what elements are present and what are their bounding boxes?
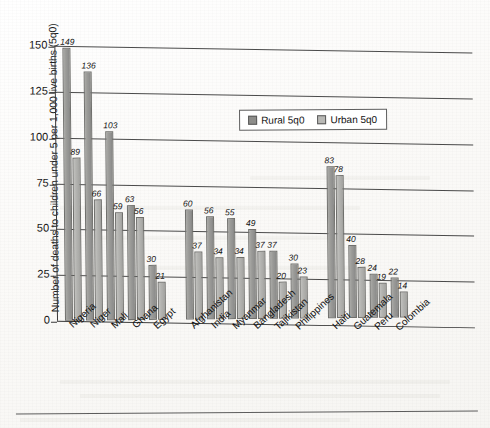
chart-legend: Rural 5q0 Urban 5q0 xyxy=(239,109,387,131)
bar-value-label: 34 xyxy=(234,246,244,256)
bar-value-label: 89 xyxy=(70,146,80,156)
bar-urban: 56 xyxy=(136,217,145,320)
bar-body xyxy=(336,175,345,318)
y-axis-tick-label: 50 xyxy=(37,222,49,234)
bar-value-label: 78 xyxy=(334,164,344,174)
bar-value-label: 49 xyxy=(246,218,256,228)
bar-value-label: 37 xyxy=(267,240,277,250)
bar-value-label: 103 xyxy=(103,120,117,130)
bar-body xyxy=(127,205,136,321)
bar-value-label: 40 xyxy=(346,234,356,244)
bar-value-label: 37 xyxy=(192,241,202,251)
legend-item-urban: Urban 5q0 xyxy=(317,114,377,125)
bar-value-label: 63 xyxy=(125,194,135,204)
bar-rural: 149 xyxy=(62,48,73,321)
bar-value-label: 37 xyxy=(255,240,265,250)
bar-group: 10359 xyxy=(105,131,124,320)
bar-rural: 103 xyxy=(105,131,115,320)
bar-urban: 66 xyxy=(94,199,103,320)
plot-area: 1501251007550250 14989136661035963563021… xyxy=(54,12,475,321)
bar-body xyxy=(115,212,124,320)
bar-rural: 63 xyxy=(127,205,136,321)
bar-value-label: 19 xyxy=(377,272,387,282)
bar-value-label: 55 xyxy=(225,207,235,217)
bar-value-label: 20 xyxy=(277,271,287,281)
chart-figure: Number of deaths to children under 5 per… xyxy=(0,0,490,428)
bar-value-label: 34 xyxy=(213,246,223,256)
bar-body xyxy=(105,131,115,320)
y-axis-tick-label: 0 xyxy=(44,314,50,326)
y-axis-tick-label: 125 xyxy=(29,84,48,96)
legend-swatch-rural-icon xyxy=(248,116,257,125)
bar-value-label: 21 xyxy=(156,270,166,280)
bar-value-label: 60 xyxy=(183,199,193,209)
bar-body xyxy=(136,217,145,320)
bar-group: 14989 xyxy=(62,47,82,320)
y-axis-tick-label: 25 xyxy=(37,268,49,280)
bar-value-label: 136 xyxy=(82,60,96,70)
category-label-layer: NigeriaNigerMaliGhanaEgyptAfghanistanInd… xyxy=(57,316,488,420)
bar-value-label: 149 xyxy=(60,36,74,46)
bar-value-label: 66 xyxy=(92,188,102,198)
bar-value-label: 59 xyxy=(113,201,123,211)
bar-value-label: 22 xyxy=(389,266,399,276)
bar-value-label: 23 xyxy=(297,265,307,275)
bar-group: 6356 xyxy=(127,204,145,320)
bar-urban: 78 xyxy=(336,175,345,318)
bar-rural: 60 xyxy=(185,209,194,319)
y-axis-tick-label: 75 xyxy=(36,176,48,188)
bar-value-label: 14 xyxy=(398,281,408,291)
y-axis-tick-label: 100 xyxy=(30,130,49,142)
bar-value-label: 30 xyxy=(288,252,298,262)
gridline-layer: 1501251007550250 xyxy=(54,12,472,16)
bar-group: 4028 xyxy=(348,245,366,318)
bar-value-label: 28 xyxy=(355,256,365,266)
legend-swatch-urban-icon xyxy=(317,115,326,124)
bar-value-label: 56 xyxy=(204,206,214,216)
bar-body xyxy=(94,199,103,320)
bar-urban: 89 xyxy=(72,157,82,320)
legend-label-urban: Urban 5q0 xyxy=(330,114,377,125)
bar-group: 6037 xyxy=(185,209,203,319)
bar-value-label: 56 xyxy=(134,206,144,216)
bar-body xyxy=(227,218,236,319)
bar-body xyxy=(185,209,194,319)
bar-value-label: 30 xyxy=(146,254,156,264)
bar-rural: 55 xyxy=(227,218,236,319)
legend-item-rural: Rural 5q0 xyxy=(248,114,304,125)
y-axis-tick-label: 150 xyxy=(29,38,48,50)
bar-layer: 1498913666103596356302160375634553449373… xyxy=(54,42,475,321)
bar-group: 13666 xyxy=(84,71,103,320)
bar-body xyxy=(72,157,82,320)
bar-group: 5534 xyxy=(227,218,245,319)
legend-label-rural: Rural 5q0 xyxy=(261,114,304,125)
bar-urban: 59 xyxy=(115,212,124,320)
bar-body xyxy=(62,48,73,321)
